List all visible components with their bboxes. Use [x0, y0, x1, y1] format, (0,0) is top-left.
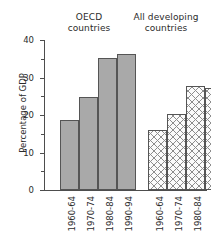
bar-oecd-1970-74 [79, 97, 98, 190]
bar-oecd-1980-84 [98, 58, 117, 190]
plot-area: 40 30 20 10 0 [44, 40, 207, 190]
x-tick-label-developing-1970-74: 1970-74 [174, 196, 184, 232]
x-tick-label-oecd-1990-94: 1990-94 [124, 196, 134, 232]
bar-developing-1980-84 [186, 86, 205, 190]
y-tick-40: 40 [40, 40, 44, 41]
group-title-oecd-line2: countries [56, 23, 122, 34]
y-tick-label-20: 20 [23, 110, 34, 120]
y-tick-minor-15 [41, 134, 44, 135]
x-tick-label-oecd-1960-64: 1960-64 [67, 196, 77, 232]
y-tick-label-10: 10 [23, 148, 34, 158]
y-tick-label-30: 30 [23, 73, 34, 83]
bar-oecd-1990-94 [117, 54, 136, 191]
x-tick-label-oecd-1980-84: 1980-84 [105, 196, 115, 232]
bar-developing-1960-64 [148, 130, 167, 190]
y-tick-minor-25 [41, 96, 44, 97]
y-tick-label-0: 0 [29, 185, 34, 195]
x-tick-label-developing-1960-64: 1960-64 [155, 196, 165, 232]
x-tick-label-oecd-1970-74: 1970-74 [86, 196, 96, 232]
group-title-developing: All developing countries [124, 12, 208, 34]
x-tick-label-developing-1980-84: 1980-84 [193, 196, 203, 232]
y-tick-10: 10 [40, 153, 44, 154]
group-title-oecd-line1: OECD [56, 12, 122, 23]
group-title-oecd: OECD countries [56, 12, 122, 34]
x-axis-line [44, 190, 207, 191]
y-axis-line [44, 40, 45, 190]
bar-oecd-1960-64 [60, 120, 79, 190]
y-tick-minor-5 [41, 171, 44, 172]
y-tick-30: 30 [40, 78, 44, 79]
bar-developing-1970-74 [167, 114, 186, 190]
y-tick-20: 20 [40, 115, 44, 116]
y-tick-0: 0 [40, 190, 44, 191]
group-title-developing-line1: All developing [124, 12, 208, 23]
group-title-developing-line2: countries [124, 23, 208, 34]
y-tick-label-40: 40 [23, 35, 34, 45]
y-tick-minor-35 [41, 59, 44, 60]
bar-chart-figure: OECD countries All developing countries … [0, 0, 211, 247]
bar-developing-1990-94 [205, 88, 211, 190]
